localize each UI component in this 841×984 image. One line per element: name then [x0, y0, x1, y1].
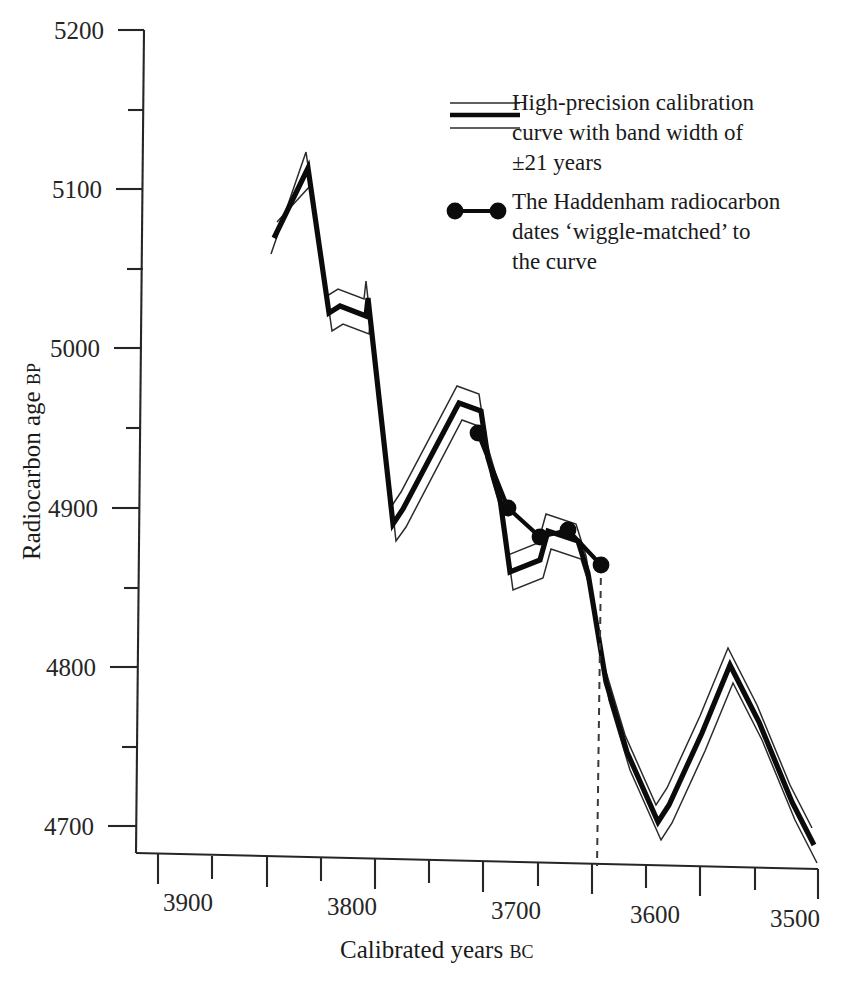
legend-entry-1-line-2: curve with band width of — [512, 120, 744, 145]
y-axis-minor-ticks — [122, 110, 144, 747]
x-axis-line — [136, 853, 818, 869]
x-tick-label: 3800 — [327, 893, 377, 920]
x-axis-title: Calibrated years BC — [340, 936, 533, 963]
x-tick-label: 3900 — [163, 889, 213, 916]
x-axis-title-suffix: BC — [509, 942, 533, 962]
legend-entry-2-line-2: dates ‘wiggle-matched’ to — [512, 219, 750, 244]
wiggle-match-point — [560, 522, 577, 539]
y-tick-label: 5200 — [54, 17, 104, 44]
x-axis-tick-labels: 3900 3800 3700 3600 3500 — [163, 889, 820, 932]
y-axis-title: Radiocarbon age BP — [18, 363, 45, 560]
legend-swatch-calibration-band-icon — [450, 103, 520, 128]
svg-text:Radiocarbon age BP: Radiocarbon age BP — [18, 363, 45, 560]
wiggle-match-drop-line — [597, 565, 601, 866]
x-axis-title-main: Calibrated years — [340, 936, 503, 963]
y-tick-label: 4900 — [48, 495, 98, 522]
y-tick-label: 4700 — [44, 813, 94, 840]
legend-swatch-wiggle-match-icon — [447, 203, 507, 220]
y-axis-title-suffix: BP — [24, 363, 44, 385]
x-tick-label: 3700 — [491, 897, 541, 924]
legend-entry-1-line-1: High-precision calibration — [512, 90, 755, 115]
wiggle-match-point — [470, 425, 487, 442]
wiggle-match-point — [532, 529, 549, 546]
axis-group — [136, 30, 818, 869]
legend-entry-2-line-3: the curve — [512, 249, 597, 274]
x-tick-label: 3500 — [770, 905, 820, 932]
y-tick-label: 4800 — [46, 654, 96, 681]
chart-figure: 5200 5100 5000 4900 4800 4700 — [0, 0, 841, 984]
wiggle-matched-dates-series — [470, 425, 610, 574]
calibration-band-lower — [277, 185, 817, 863]
legend-entry-2-line-1: The Haddenham radiocarbon — [512, 189, 781, 214]
y-axis-tick-labels: 5200 5100 5000 4900 4800 4700 — [44, 17, 104, 840]
wiggle-match-point — [500, 500, 517, 517]
y-tick-label: 5100 — [52, 176, 102, 203]
legend: High-precision calibration curve with ba… — [447, 90, 781, 274]
y-axis-line — [136, 30, 144, 853]
x-tick-label: 3600 — [630, 901, 680, 928]
wiggle-match-point — [593, 557, 610, 574]
y-tick-label: 5000 — [50, 335, 100, 362]
y-axis-title-main: Radiocarbon age — [18, 391, 45, 560]
legend-entry-1-line-3: ±21 years — [512, 150, 602, 175]
svg-text:Calibrated years BC: Calibrated years BC — [340, 936, 533, 963]
radiocarbon-calibration-chart: 5200 5100 5000 4900 4800 4700 — [0, 0, 841, 984]
